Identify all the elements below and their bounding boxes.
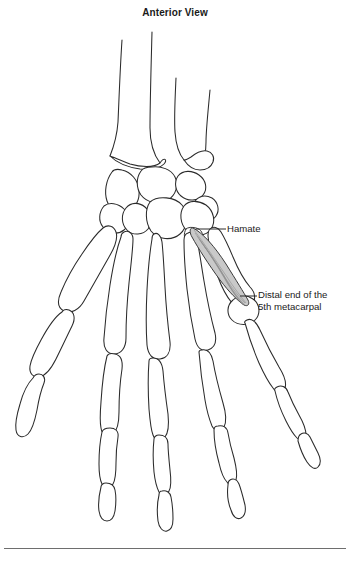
ring-middle-phalanx xyxy=(214,426,237,485)
hand-skeleton-illustration xyxy=(0,0,350,566)
lunate xyxy=(137,167,177,203)
ulna-distal-head xyxy=(184,151,214,170)
triquetrum xyxy=(176,171,206,200)
ring-proximal-phalanx xyxy=(199,350,226,431)
little-proximal-phalanx xyxy=(245,319,286,392)
thumb-proximal-phalanx xyxy=(30,310,74,378)
ulna-medial-border xyxy=(175,78,184,160)
label-hamate: Hamate xyxy=(227,223,261,235)
ring-distal-phalanx xyxy=(228,479,246,519)
thumb-distal-phalanx xyxy=(16,374,45,437)
little-distal-phalanx xyxy=(298,433,320,468)
index-proximal-phalanx xyxy=(100,354,122,436)
radius-lateral-border xyxy=(110,40,122,156)
index-distal-phalanx xyxy=(99,483,116,521)
bottom-divider xyxy=(4,548,346,549)
radius-medial-border xyxy=(150,32,160,163)
anatomy-figure: Anterior View xyxy=(0,0,350,566)
forearm-bones xyxy=(110,32,214,170)
middle-middle-phalanx xyxy=(153,435,171,495)
label-distal-fifth-metacarpal: Distal end of the 5th metacarpal xyxy=(258,289,327,312)
little-middle-phalanx xyxy=(275,386,306,440)
middle-distal-phalanx xyxy=(157,491,173,531)
metacarpal-bones xyxy=(59,226,259,359)
index-middle-phalanx xyxy=(99,428,118,488)
middle-proximal-phalanx xyxy=(148,358,168,440)
metacarpal-3 xyxy=(146,233,170,359)
